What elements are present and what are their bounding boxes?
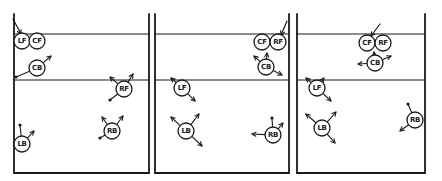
player-label: CF: [32, 37, 42, 45]
dot-tip-icon: [14, 75, 17, 78]
panel-1-player-LF: LF: [14, 33, 30, 49]
figure-background: [0, 0, 442, 181]
player-label: RB: [268, 131, 278, 139]
panel-2-player-RF: RF: [270, 34, 286, 50]
tactics-figure: LFCFCBRFRBLBCFRFCBLFLBRBCFRFCBLFLBRB: [0, 0, 442, 181]
player-label: LF: [313, 84, 322, 92]
player-label: RF: [378, 39, 388, 47]
dot-tip-icon: [406, 102, 409, 105]
panel-3-player-RF: RF: [375, 35, 391, 51]
dot-tip-icon: [270, 116, 273, 119]
player-label: LF: [18, 37, 27, 45]
player-label: LB: [17, 140, 26, 148]
player-label: RB: [410, 116, 420, 124]
player-label: CB: [261, 63, 271, 71]
player-label: CB: [370, 59, 380, 67]
panel-2-player-CF: CF: [254, 34, 270, 50]
player-label: LF: [178, 84, 187, 92]
player-label: CF: [257, 38, 267, 46]
player-label: LB: [317, 124, 326, 132]
player-label: RF: [273, 38, 283, 46]
player-label: CF: [362, 39, 372, 47]
player-label: LB: [181, 127, 190, 135]
dot-tip-icon: [108, 98, 111, 101]
player-label: CB: [32, 64, 42, 72]
three-panel-soccer-cover-diagram: LFCFCBRFRBLBCFRFCBLFLBRBCFRFCBLFLBRB: [0, 0, 442, 181]
panel-3-player-CF: CF: [359, 35, 375, 51]
player-label: RB: [107, 127, 117, 135]
player-label: RF: [119, 85, 129, 93]
dot-tip-icon: [98, 136, 101, 139]
panel-1-player-CF: CF: [29, 33, 45, 49]
dot-tip-icon: [18, 123, 21, 126]
